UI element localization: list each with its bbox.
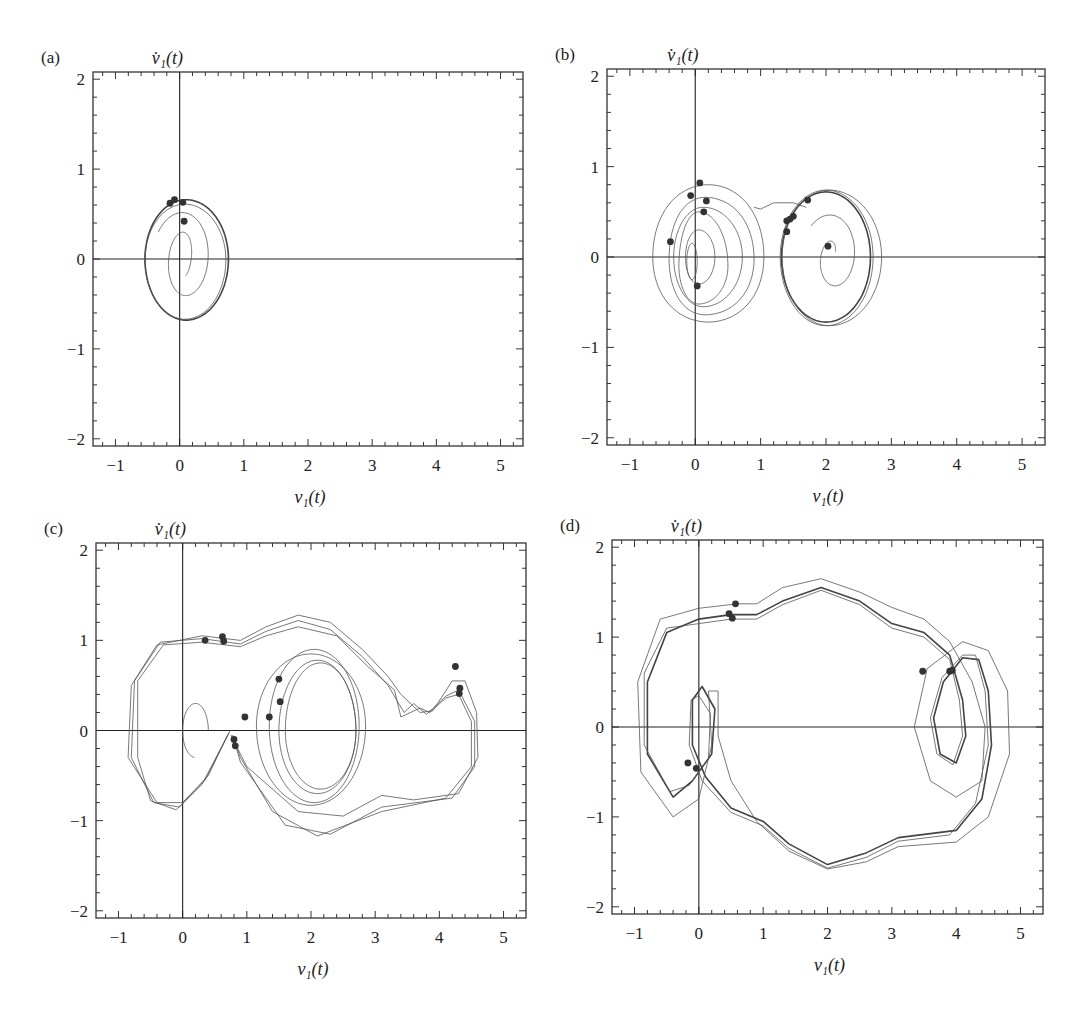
y-axis-label: v̇₁(t) [152,48,183,69]
poincare-point [181,218,188,225]
x-tick-label: 5 [1016,924,1025,943]
poincare-point [171,196,178,203]
x-tick-label: 1 [243,928,252,947]
x-tick-label: −1 [106,456,124,475]
y-tick-label: −1 [581,338,599,357]
poincare-point [685,760,692,767]
x-tick-label: 5 [496,456,505,475]
trajectory-curve [285,663,356,789]
poincare-point [700,208,707,215]
panel-label: (c) [44,519,63,538]
x-tick-label: 3 [368,456,377,475]
trajectory-group [145,196,228,320]
x-tick-label: 4 [952,455,961,474]
x-tick-label: 1 [240,456,249,475]
poincare-point [949,667,956,674]
y-tick-label: 1 [591,158,600,177]
x-tick-label: 2 [823,924,832,943]
poincare-point [667,238,674,245]
poincare-point [825,243,832,250]
panel-label: (b) [555,45,575,64]
x-tick-label: 2 [307,928,316,947]
poincare-point [232,742,239,749]
poincare-point [703,198,710,205]
x-tick-label: 3 [888,924,897,943]
poincare-point [919,668,926,675]
poincare-point [266,714,273,721]
x-tick-label: 0 [691,455,700,474]
x-tick-label: 3 [887,455,896,474]
y-tick-label: 1 [77,160,86,179]
x-tick-label: 0 [175,456,184,475]
poincare-point [783,228,790,235]
y-tick-label: 0 [77,250,86,269]
y-tick-label: 2 [77,70,86,89]
poincare-point [729,615,736,622]
poincare-point [179,199,186,206]
y-axis-label: v̇₁(t) [667,45,698,66]
poincare-point [220,638,227,645]
x-tick-label: 1 [756,455,765,474]
x-tick-label: 3 [371,928,380,947]
x-axis-label: v₁(t) [812,486,843,507]
y-tick-label: 1 [596,628,605,647]
x-tick-label: 0 [695,924,704,943]
poincare-point [241,714,248,721]
x-tick-label: 4 [432,456,441,475]
trajectory-curve [269,649,359,802]
x-axis-label: v₁(t) [294,487,325,508]
trajectory-curve [145,200,228,320]
trajectory-curve [811,215,855,286]
poincare-point [202,637,209,644]
x-tick-label: 5 [499,928,508,947]
poincare-point [790,213,797,220]
y-tick-label: 0 [591,248,600,267]
y-tick-label: −1 [67,340,85,359]
y-tick-label: 0 [80,722,89,741]
y-tick-label: 1 [80,631,89,650]
panel-label: (d) [560,516,580,535]
y-axis-label: v̇₁(t) [155,519,186,540]
y-tick-label: 2 [596,538,605,557]
poincare-point [687,192,694,199]
poincare-point [696,179,703,186]
panel-label: (a) [41,48,60,67]
poincare-point [693,765,700,772]
y-tick-label: 2 [591,67,600,86]
trajectory-group [128,615,478,836]
x-tick-label: 0 [178,928,187,947]
x-tick-label: 1 [759,924,768,943]
y-tick-label: 2 [80,541,89,560]
panel-c: −1012345−2−1012v₁(t)v̇₁(t)(c) [44,519,526,980]
trajectory-curve [256,654,365,805]
y-tick-label: −2 [67,430,85,449]
x-tick-label: −1 [621,455,639,474]
trajectory-group [638,579,1010,869]
poincare-point [277,698,284,705]
trajectory-curve [638,579,1010,869]
poincare-point [804,197,811,204]
trajectory-curve [644,590,988,868]
poincare-point [694,283,701,290]
x-tick-label: 2 [822,455,831,474]
x-tick-label: 2 [304,456,313,475]
poincare-point [452,663,459,670]
panel-a: −1012345−2−1012v₁(t)v̇₁(t)(a) [41,48,523,508]
x-axis-label: v₁(t) [297,959,328,980]
poincare-point [231,736,238,743]
x-tick-label: 4 [952,924,961,943]
y-tick-label: −1 [586,808,604,827]
trajectory-curve [669,197,754,314]
trajectory-group [653,179,882,325]
x-tick-label: −1 [625,924,643,943]
x-tick-label: 4 [435,928,444,947]
y-axis-label: v̇₁(t) [671,516,702,537]
y-tick-label: 0 [596,718,605,737]
y-tick-label: −2 [586,898,604,917]
trajectory-curve [679,212,728,304]
trajectory-curve [128,615,478,816]
panel-d: −1012345−2−1012v₁(t)v̇₁(t)(d) [560,516,1043,976]
y-tick-label: −2 [70,902,88,921]
x-tick-label: −1 [109,928,127,947]
x-axis-label: v₁(t) [814,955,845,976]
